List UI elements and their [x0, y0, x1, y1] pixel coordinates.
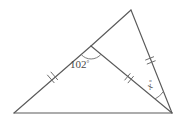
- segment-side-D-B: [91, 10, 131, 46]
- segment-cevian-D-C: [91, 46, 172, 113]
- angle-label-102-value: 102: [70, 58, 87, 70]
- tick-marks-B-C: [146, 57, 156, 64]
- degree-symbol-102: °: [87, 59, 90, 67]
- geometry-figure: 102° x°: [0, 0, 185, 123]
- tick-marks-A-D: [48, 72, 58, 83]
- angle-label-x: x°: [143, 78, 157, 92]
- angle-arc-at-C: [155, 92, 163, 99]
- geometry-canvas: 102° x°: [0, 0, 185, 123]
- segment-side-B-C: [131, 10, 172, 113]
- segment-side-A-D: [14, 46, 91, 113]
- angle-label-102: 102°: [70, 58, 90, 70]
